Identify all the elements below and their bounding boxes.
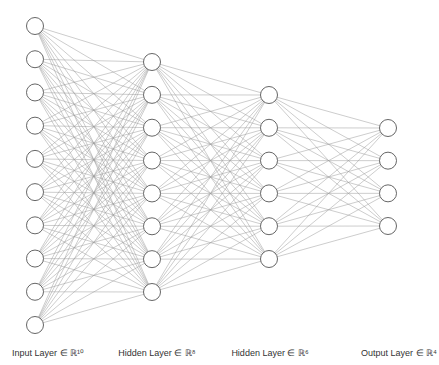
neuron-node-output-4: [380, 218, 397, 235]
connection-edge: [152, 193, 269, 292]
connection-edge: [152, 128, 269, 292]
neuron-node-hidden-1-7: [144, 251, 161, 268]
connection-edges: [35, 26, 388, 325]
connection-edge: [35, 161, 152, 325]
connection-edge: [152, 62, 269, 95]
neuron-node-hidden-2-2: [261, 119, 278, 136]
neuron-node-output-3: [380, 185, 397, 202]
connection-edge: [152, 259, 269, 292]
connection-edge: [269, 161, 388, 259]
neuron-node-hidden-1-3: [144, 119, 161, 136]
neuron-node-input-5: [27, 150, 44, 167]
neuron-node-hidden-1-6: [144, 218, 161, 235]
neuron-node-hidden-2-5: [261, 218, 278, 235]
connection-edge: [269, 226, 388, 259]
connection-edge: [35, 292, 152, 325]
connection-edge: [35, 62, 152, 325]
neuron-node-input-1: [27, 18, 44, 35]
connection-edge: [35, 62, 152, 92]
neuron-node-input-7: [27, 217, 44, 234]
connection-edge: [35, 26, 152, 62]
neuron-node-hidden-1-8: [144, 284, 161, 301]
layer-label-output: Output Layer ∈ ℝ⁴: [361, 348, 437, 358]
layer-label-hidden-1: Hidden Layer ∈ ℝ⁸: [118, 348, 195, 358]
neuron-node-input-10: [27, 317, 44, 334]
neuron-node-input-9: [27, 283, 44, 300]
neuron-node-input-4: [27, 117, 44, 134]
connection-edge: [35, 226, 152, 325]
neuron-node-input-6: [27, 184, 44, 201]
neuron-node-hidden-1-1: [144, 54, 161, 71]
neuron-node-hidden-1-5: [144, 185, 161, 202]
neuron-node-input-2: [27, 51, 44, 68]
neuron-node-hidden-2-1: [261, 87, 278, 104]
neuron-node-hidden-2-4: [261, 185, 278, 202]
neuron-node-hidden-2-6: [261, 251, 278, 268]
neuron-node-input-3: [27, 84, 44, 101]
connection-edge: [35, 95, 152, 325]
connection-edge: [35, 62, 152, 192]
layer-label-input: Input Layer ∈ ℝ¹⁰: [12, 348, 84, 358]
neuron-node-hidden-1-2: [144, 86, 161, 103]
neuron-node-hidden-2-3: [261, 152, 278, 169]
connection-edge: [269, 95, 388, 128]
neural-network-diagram: [0, 0, 439, 365]
layer-label-hidden-2: Hidden Layer ∈ ℝ⁶: [231, 348, 308, 358]
neuron-node-output-1: [380, 120, 397, 137]
neuron-node-hidden-1-4: [144, 152, 161, 169]
neuron-node-output-2: [380, 152, 397, 169]
neuron-node-input-8: [27, 250, 44, 267]
